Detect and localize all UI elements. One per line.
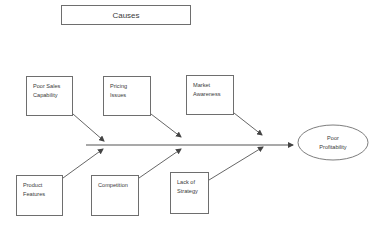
cause-box-lack-of-strategy: Lack of Strategy (170, 172, 209, 214)
cause-label: Lack of Strategy (177, 178, 198, 195)
arrow-pricing (151, 114, 181, 137)
cause-label: Pricing Issues (110, 82, 127, 99)
effect-node: Poor Profitability (298, 125, 368, 160)
arrow-strategy (209, 147, 263, 180)
cause-label: Market Awareness (193, 81, 221, 98)
arrow-product (63, 149, 103, 178)
effect-label: Poor Profitability (319, 134, 346, 151)
arrow-poor-sales (73, 114, 104, 141)
causes-title-box: Causes (61, 5, 191, 25)
cause-label: Competition (98, 181, 128, 190)
cause-box-pricing-issues: Pricing Issues (103, 76, 151, 116)
cause-box-poor-sales-capability: Poor Sales Capability (26, 76, 73, 116)
cause-label: Product Features (23, 181, 45, 198)
cause-box-competition: Competition (91, 175, 139, 216)
cause-box-product-features: Product Features (16, 175, 63, 216)
arrow-market (234, 113, 262, 135)
causes-title: Causes (112, 11, 139, 20)
cause-label: Poor Sales Capability (33, 82, 60, 99)
cause-box-market-awareness: Market Awareness (186, 75, 234, 115)
